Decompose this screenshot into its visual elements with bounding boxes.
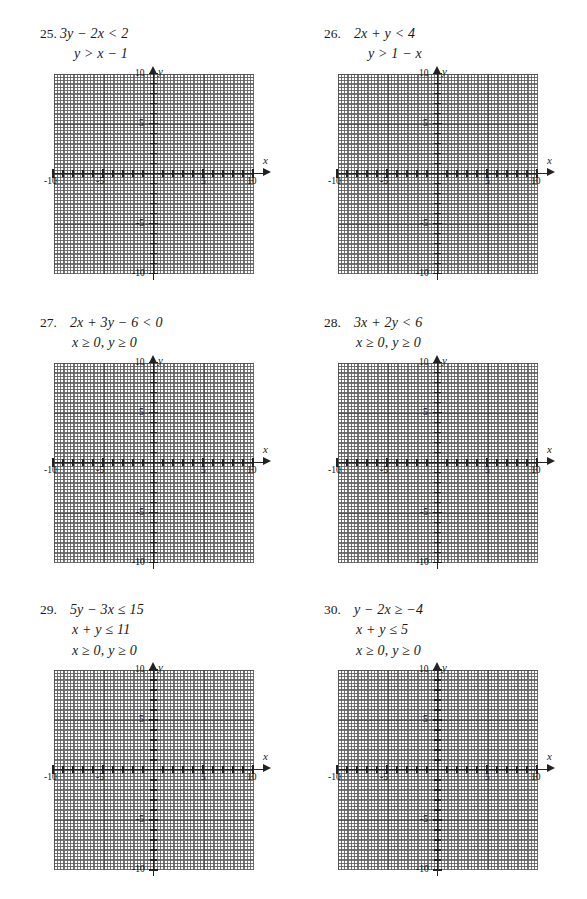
y-tick-label-neg10: -10 <box>416 864 429 874</box>
x-axis-tick <box>446 170 447 177</box>
x-axis-tick <box>222 459 223 466</box>
coordinate-grid-28[interactable]: y x -10 -5 5 10 10 5 -5 -10 <box>328 357 560 569</box>
x-axis-tick <box>252 458 253 467</box>
y-axis-tick <box>149 719 158 720</box>
x-axis-tick <box>142 170 143 177</box>
x-axis-tick <box>202 765 203 774</box>
y-axis-tick <box>433 562 442 563</box>
equation-line: 3x + 2y < 6 <box>354 313 423 333</box>
x-axis-tick <box>456 766 457 773</box>
coordinate-grid-26[interactable]: y x -10 -5 5 10 10 5 -5 -10 <box>328 68 560 280</box>
y-axis-tick <box>150 709 157 710</box>
x-axis-label: x <box>263 154 268 166</box>
problem-statement-25: 25. 3y − 2x < 2 y > x − 1 <box>36 24 301 65</box>
x-axis-tick <box>102 458 103 467</box>
x-axis-tick <box>122 766 123 773</box>
x-axis-tick <box>466 459 467 466</box>
x-axis-tick <box>376 459 377 466</box>
y-axis-label: y <box>442 65 447 77</box>
x-axis-arrow-icon <box>547 764 555 772</box>
y-axis-tick <box>150 799 157 800</box>
y-axis-tick <box>150 163 157 164</box>
y-axis-tick <box>150 253 157 254</box>
x-tick-label-neg10: -10 <box>328 772 341 782</box>
x-axis-tick <box>62 766 63 773</box>
y-axis-tick <box>434 729 441 730</box>
x-axis-tick <box>336 458 337 467</box>
y-axis-tick <box>433 273 442 274</box>
x-axis-tick <box>72 170 73 177</box>
y-axis-tick <box>150 679 157 680</box>
y-axis-tick <box>434 213 441 214</box>
x-axis-label: x <box>547 750 552 762</box>
x-axis-tick <box>162 459 163 466</box>
equation-line: 2x + 3y − 6 < 0 <box>70 313 163 333</box>
y-axis-tick <box>150 113 157 114</box>
x-axis-tick <box>516 170 517 177</box>
equation-line: x ≥ 0, y ≥ 0 <box>354 333 421 353</box>
equation-line: y > 1 − x <box>354 44 422 64</box>
y-axis-tick <box>150 839 157 840</box>
x-axis-tick <box>396 170 397 177</box>
y-axis-tick <box>434 422 441 423</box>
y-tick-label-pos5: 5 <box>139 118 144 128</box>
y-axis-tick <box>150 402 157 403</box>
x-axis-tick <box>366 459 367 466</box>
y-axis-tick <box>150 103 157 104</box>
x-axis-tick <box>496 170 497 177</box>
y-axis-tick <box>434 522 441 523</box>
x-axis-tick <box>516 459 517 466</box>
x-axis-tick <box>222 766 223 773</box>
y-axis-tick <box>433 223 442 224</box>
x-axis-tick <box>346 459 347 466</box>
x-axis-tick <box>212 459 213 466</box>
y-axis-tick <box>150 153 157 154</box>
coordinate-grid-27[interactable]: y x -10 -5 5 10 10 5 -5 -10 <box>44 357 276 569</box>
y-axis-tick <box>150 482 157 483</box>
y-axis-tick <box>433 869 442 870</box>
y-tick-label-neg5: -5 <box>420 218 428 228</box>
x-axis-tick <box>426 766 427 773</box>
x-axis-tick <box>526 766 527 773</box>
x-axis-tick <box>506 170 507 177</box>
equation-line: x ≥ 0, y ≥ 0 <box>354 641 421 661</box>
x-axis-tick <box>376 170 377 177</box>
x-axis-tick <box>242 170 243 177</box>
coordinate-grid-29[interactable]: y x -10 -5 5 10 10 5 -5 -10 <box>44 664 276 876</box>
y-axis-tick <box>434 859 441 860</box>
y-axis-tick <box>434 492 441 493</box>
y-axis-tick <box>150 183 157 184</box>
x-axis-tick <box>162 766 163 773</box>
x-axis-tick <box>446 766 447 773</box>
x-axis-tick <box>182 766 183 773</box>
problem-number-29: 29. <box>40 600 57 619</box>
y-axis-tick <box>433 669 442 670</box>
x-axis-tick <box>182 170 183 177</box>
y-axis-tick <box>150 779 157 780</box>
x-axis-tick <box>376 766 377 773</box>
y-axis-tick <box>434 143 441 144</box>
y-axis-tick <box>434 739 441 740</box>
x-axis-tick <box>172 170 173 177</box>
x-axis-label: x <box>263 443 268 455</box>
equation-line: y > x − 1 <box>60 44 128 64</box>
y-axis-tick <box>434 233 441 234</box>
x-axis-tick <box>102 765 103 774</box>
coordinate-grid-30[interactable]: y x -10 -5 5 10 10 5 -5 -10 <box>328 664 560 876</box>
problem-number-26: 26. <box>324 24 341 43</box>
y-axis-tick <box>434 542 441 543</box>
y-axis-label: y <box>158 65 163 77</box>
y-tick-label-neg10: -10 <box>132 864 145 874</box>
y-axis <box>153 664 154 876</box>
coordinate-grid-25[interactable]: y x -10 -5 5 10 10 5 -5 -10 <box>44 68 276 280</box>
y-axis-tick <box>434 113 441 114</box>
y-axis-tick <box>434 183 441 184</box>
y-axis-tick <box>150 502 157 503</box>
y-axis-tick <box>434 679 441 680</box>
y-axis-tick <box>433 362 442 363</box>
y-axis-tick <box>150 143 157 144</box>
problem-equations-26: 2x + y < 4 y > 1 − x <box>354 24 422 65</box>
x-axis-label: x <box>263 750 268 762</box>
problem-block-30: 30. y − 2x ≥ −4 x + y ≤ 5 x ≥ 0, y ≥ 0 y… <box>320 600 585 876</box>
y-axis-tick <box>150 749 157 750</box>
